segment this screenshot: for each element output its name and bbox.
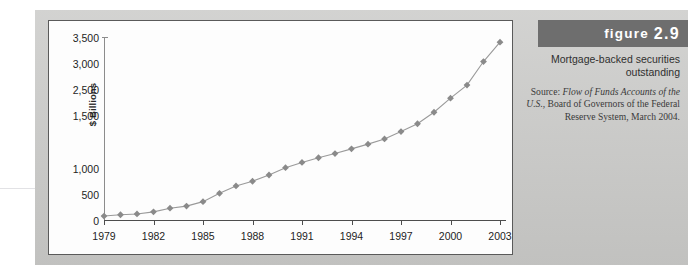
data-point-marker <box>299 159 306 166</box>
figure-title: Mortgage-backed securities outstanding <box>522 53 688 79</box>
x-axis-tick-label: 2000 <box>439 230 462 242</box>
y-axis-tick-label: 3,500 <box>53 32 99 44</box>
x-axis-tick-label: 1991 <box>290 230 313 242</box>
x-axis-tick-label: 1994 <box>340 230 363 242</box>
x-axis-tick <box>154 220 155 225</box>
x-axis-tick <box>203 220 204 225</box>
data-point-marker <box>117 211 124 218</box>
x-axis-tick <box>451 220 452 225</box>
data-point-marker <box>101 213 108 220</box>
figure-source: Source: Flow of Funds Accounts of the U.… <box>522 86 688 123</box>
figure-source-prefix: Source: <box>531 86 560 97</box>
x-axis-tick-label: 1982 <box>142 230 165 242</box>
data-point-marker <box>414 120 421 127</box>
x-axis-tick-label: 1988 <box>241 230 264 242</box>
data-point-marker <box>150 208 157 215</box>
y-axis-tick-label: 1,000 <box>53 163 99 175</box>
data-point-marker <box>216 190 223 197</box>
y-axis-tick-label: 2,500 <box>53 84 99 96</box>
data-point-marker <box>348 145 355 152</box>
x-axis-tick <box>500 220 501 225</box>
chart-card: $ Billions 3,5003,0002,5001,5001,0005000… <box>48 20 513 255</box>
y-axis-tick-labels: 3,5003,0002,5001,5001,0005000 <box>49 21 99 254</box>
y-axis-tick-label: 0 <box>53 215 99 227</box>
data-point-marker <box>233 183 240 190</box>
x-axis-tick-label: 1985 <box>191 230 214 242</box>
data-point-marker <box>398 128 405 135</box>
data-point-marker <box>332 150 339 157</box>
x-axis-tick <box>253 220 254 225</box>
figure-number: 2.9 <box>654 25 680 43</box>
data-point-marker <box>266 172 273 179</box>
x-axis-tick-label: 1997 <box>389 230 412 242</box>
data-series <box>104 29 506 221</box>
plot-area: 197919821985198819911994199720002003 <box>104 29 506 221</box>
data-point-marker <box>200 198 207 205</box>
data-point-marker <box>315 154 322 161</box>
figure-caption-block: figure 2.9 Mortgage-backed securities ou… <box>522 20 688 123</box>
data-point-marker <box>365 141 372 148</box>
data-point-marker <box>167 205 174 212</box>
figure-banner: figure 2.9 <box>538 20 688 47</box>
data-point-marker <box>282 164 289 171</box>
data-point-marker <box>381 136 388 143</box>
figure-banner-label: figure <box>604 26 649 41</box>
y-axis-tick-label: 500 <box>53 189 99 201</box>
x-axis-tick <box>302 220 303 225</box>
data-point-marker <box>183 203 190 210</box>
figure-source-italic-1: Flow of Funds <box>562 86 618 97</box>
data-point-marker <box>249 178 256 185</box>
y-axis-tick-label: 1,500 <box>53 110 99 122</box>
x-axis-tick-label: 1979 <box>92 230 115 242</box>
y-axis-tick-label: 3,000 <box>53 58 99 70</box>
x-axis-tick <box>352 220 353 225</box>
figure-source-rest: , Board of Governors of the Federal Rese… <box>543 98 680 121</box>
series-line <box>104 42 500 216</box>
x-axis-tick <box>104 220 105 225</box>
data-point-marker <box>134 211 141 218</box>
x-axis-tick <box>401 220 402 225</box>
x-axis-tick-label: 2003 <box>488 230 511 242</box>
